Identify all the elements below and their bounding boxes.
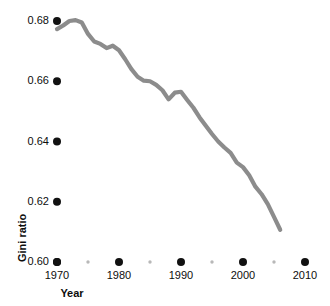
y-axis-title: Gini ratio xyxy=(16,214,28,262)
x-tick-label-1980: 1980 xyxy=(96,270,142,281)
x-tick-label-2010: 2010 xyxy=(282,270,328,281)
y-tick-dot-0.6 xyxy=(53,258,61,266)
y-tick-label-0.62: 0.62 xyxy=(15,196,49,207)
x-tick-dot-1980 xyxy=(115,258,123,266)
x-minor-tick-dot-1975 xyxy=(86,260,89,263)
x-tick-label-2000: 2000 xyxy=(220,270,266,281)
x-minor-tick-dot-2005 xyxy=(272,260,275,263)
y-tick-dot-0.62 xyxy=(53,198,61,206)
y-tick-label-0.66: 0.66 xyxy=(15,75,49,86)
y-tick-label-0.64: 0.64 xyxy=(15,136,49,147)
x-tick-label-1970: 1970 xyxy=(34,270,80,281)
plot-area xyxy=(0,0,330,306)
x-minor-tick-dot-1995 xyxy=(210,260,213,263)
x-axis-major-tick-dots xyxy=(53,258,309,266)
x-axis-title: Year xyxy=(42,287,102,299)
x-tick-label-1990: 1990 xyxy=(158,270,204,281)
x-minor-tick-dot-1985 xyxy=(148,260,151,263)
gini-ratio-line-chart: 0.600.620.640.660.68 1970198019902000201… xyxy=(0,0,330,306)
x-tick-dot-2000 xyxy=(239,258,247,266)
x-tick-dot-2010 xyxy=(301,258,309,266)
y-tick-dot-0.68 xyxy=(53,17,61,25)
gini-ratio-line-series xyxy=(57,20,280,230)
y-tick-dot-0.64 xyxy=(53,138,61,146)
y-tick-dot-0.66 xyxy=(53,77,61,85)
x-tick-dot-1990 xyxy=(177,258,185,266)
y-tick-label-0.68: 0.68 xyxy=(15,15,49,26)
y-axis-tick-dots xyxy=(53,17,61,266)
